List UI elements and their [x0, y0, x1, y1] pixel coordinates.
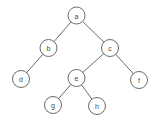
node-label-h: h: [95, 103, 99, 110]
binary-tree-diagram: abcdefgh: [0, 0, 157, 119]
tree-edge-c-e: [83, 54, 104, 73]
tree-edge-c-f: [116, 54, 134, 73]
tree-edge-b-d: [27, 54, 43, 72]
node-label-g: g: [51, 102, 55, 110]
node-layer: abcdefgh: [13, 7, 148, 115]
edge-layer: [27, 21, 134, 99]
tree-node-h[interactable]: h: [89, 98, 106, 115]
tree-canvas: abcdefgh: [0, 0, 157, 119]
tree-edge-a-c: [83, 21, 104, 42]
tree-node-a[interactable]: a: [68, 7, 85, 24]
node-label-a: a: [75, 13, 79, 20]
tree-node-c[interactable]: c: [102, 40, 119, 57]
node-label-b: b: [47, 45, 51, 52]
tree-edge-e-h: [82, 85, 92, 99]
tree-node-g[interactable]: g: [45, 97, 62, 114]
tree-node-e[interactable]: e: [68, 70, 85, 87]
node-label-f: f: [138, 77, 140, 84]
tree-node-b[interactable]: b: [40, 40, 57, 57]
tree-edge-a-b: [54, 22, 71, 42]
node-label-e: e: [75, 75, 79, 82]
tree-node-d[interactable]: d: [13, 71, 30, 88]
tree-edge-e-g: [59, 84, 71, 98]
node-label-c: c: [108, 45, 112, 52]
node-label-d: d: [19, 76, 23, 83]
tree-node-f[interactable]: f: [131, 72, 148, 89]
